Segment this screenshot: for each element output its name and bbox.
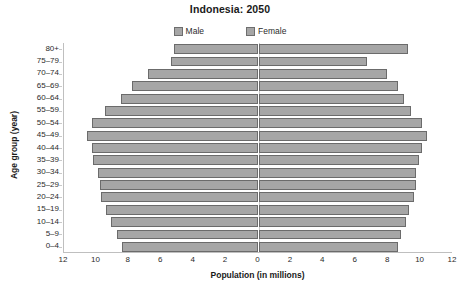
x-axis-tick-label: 2 (288, 255, 292, 264)
y-axis-tick-mark (59, 74, 62, 75)
x-axis-tick-label: 12 (448, 255, 457, 264)
x-axis-tick-label: 12 (59, 255, 68, 264)
y-axis-tick-mark (59, 99, 62, 100)
bar-row (64, 118, 452, 128)
bar-male (171, 57, 259, 67)
bar-male (100, 180, 259, 190)
bar-male (87, 131, 259, 141)
legend-swatch-female-icon (246, 27, 255, 36)
y-axis-tick-label: 75–79 (3, 56, 59, 65)
bar-row (64, 81, 452, 91)
bar-female (259, 44, 408, 54)
x-axis-tick-label: 8 (385, 255, 389, 264)
x-axis-tick-label: 8 (126, 255, 130, 264)
y-axis-tick-label: 0–4 (3, 241, 59, 250)
bar-row (64, 44, 452, 54)
x-axis-title: Population (in millions) (63, 270, 452, 280)
y-axis-tick-mark (59, 123, 62, 124)
bar-female (259, 192, 415, 202)
y-axis-tick-mark (59, 62, 62, 63)
bar-male (111, 217, 258, 227)
bar-female (259, 242, 398, 252)
y-axis-tick-mark (59, 136, 62, 137)
bar-male (93, 155, 258, 165)
chart-title: Indonesia: 2050 (0, 3, 460, 15)
bar-row (64, 168, 452, 178)
bar-female (259, 217, 406, 227)
bar-female (259, 118, 423, 128)
bar-male (148, 69, 258, 79)
chart-legend: Male Female (0, 26, 460, 36)
y-axis-tick-label: 10–14 (3, 217, 59, 226)
x-axis-tick-label: 10 (415, 255, 424, 264)
y-axis-tick-label: 5–9 (3, 229, 59, 238)
bar-row (64, 180, 452, 190)
bar-female (259, 230, 402, 240)
bar-female (259, 205, 410, 215)
y-axis-tick-mark (59, 185, 62, 186)
bar-male (121, 94, 259, 104)
x-axis-tick-label: 6 (158, 255, 162, 264)
bar-male (132, 81, 258, 91)
bar-row (64, 69, 452, 79)
y-axis-tick-mark (59, 210, 62, 211)
bar-male (122, 242, 258, 252)
y-axis-tick-mark (59, 247, 62, 248)
y-axis-tick-label: 70–74 (3, 68, 59, 77)
bar-male (92, 143, 259, 153)
x-axis-tick-label: 2 (223, 255, 227, 264)
bar-male (101, 192, 258, 202)
y-axis-tick-mark (59, 222, 62, 223)
x-axis-tick-label: 10 (91, 255, 100, 264)
y-axis-tick-mark (59, 49, 62, 50)
bar-female (259, 180, 416, 190)
population-pyramid-chart: Indonesia: 2050 Male Female 80+75–7970–7… (0, 0, 460, 289)
y-axis-tick-mark (59, 234, 62, 235)
bar-row (64, 205, 452, 215)
y-axis-tick-label: 80+ (3, 44, 59, 53)
bar-female (259, 143, 423, 153)
y-axis-tick-mark (59, 148, 62, 149)
bar-male (105, 106, 259, 116)
x-axis-tick-label: 4 (190, 255, 194, 264)
bar-male (117, 230, 258, 240)
bar-row (64, 155, 452, 165)
bar-female (259, 131, 428, 141)
y-axis-tick-mark (59, 173, 62, 174)
legend-swatch-male-icon (174, 27, 183, 36)
plot-area (64, 43, 452, 252)
x-axis-tick-label: 6 (353, 255, 357, 264)
bar-row (64, 94, 452, 104)
bar-female (259, 168, 416, 178)
bar-row (64, 143, 452, 153)
bar-female (259, 94, 405, 104)
y-axis-tick-mark (59, 111, 62, 112)
y-axis-tick-label: 15–19 (3, 204, 59, 213)
bar-female (259, 69, 387, 79)
bar-male (92, 118, 259, 128)
bar-row (64, 217, 452, 227)
bar-male (174, 44, 258, 54)
bar-row (64, 131, 452, 141)
legend-label-female: Female (258, 26, 286, 36)
y-axis-title: Age group (year) (9, 100, 19, 190)
bar-row (64, 57, 452, 67)
bar-female (259, 106, 411, 116)
bar-male (98, 168, 258, 178)
bar-male (106, 205, 258, 215)
bar-female (259, 155, 419, 165)
y-axis-tick-mark (59, 160, 62, 161)
legend-label-male: Male (186, 26, 204, 36)
plot-frame (63, 43, 452, 253)
bar-row (64, 242, 452, 252)
bar-female (259, 81, 398, 91)
bar-row (64, 106, 452, 116)
y-axis-tick-label: 65–69 (3, 81, 59, 90)
bar-row (64, 230, 452, 240)
y-axis-tick-mark (59, 86, 62, 87)
y-axis-tick-mark (59, 197, 62, 198)
bar-row (64, 192, 452, 202)
legend-item-female: Female (246, 26, 286, 36)
x-axis-tick-labels: 12108642024681012 (63, 255, 452, 269)
bar-female (259, 57, 368, 67)
